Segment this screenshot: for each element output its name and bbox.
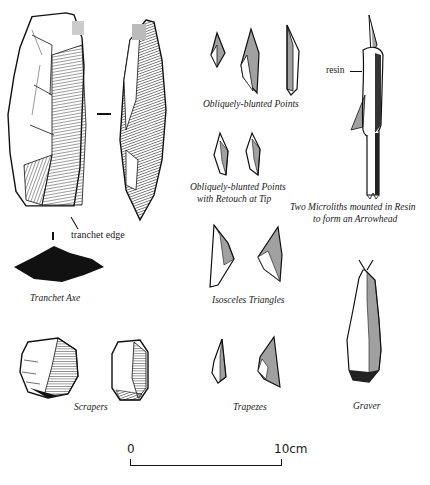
section-marker (52, 232, 54, 240)
graver-drawing (345, 260, 395, 390)
scale-start-label: 0 (127, 442, 135, 456)
resin-label: resin (326, 65, 344, 75)
arrowhead-drawing (345, 15, 395, 200)
caption-tranchet-axe: Tranchet Axe (30, 292, 80, 304)
obliquely-blunted-points-drawings (203, 25, 303, 95)
tranchet-edge-label: tranchet edge (71, 229, 125, 240)
scraper-2-drawing (110, 338, 150, 400)
scale-end-label: 10cm (274, 442, 308, 456)
caption-isosceles-triangles: Isosceles Triangles (212, 294, 285, 306)
caption-arrowhead-line2: to form an Arrowhead (313, 213, 397, 225)
resin-leader-line (350, 71, 362, 72)
tranchet-axe-cross-section (14, 245, 104, 285)
view-separator-dash (97, 113, 111, 115)
caption-obliquely-blunted-points: Obliquely-blunted Points (203, 98, 299, 110)
caption-retouched-points-line1: Obliquely-blunted Points (190, 181, 286, 193)
retouched-points-drawings (212, 131, 272, 179)
isosceles-triangles-drawings (206, 225, 286, 295)
caption-arrowhead-line1: Two Microliths mounted in Resin (290, 201, 416, 213)
tranchet-axe-side-drawing (118, 20, 178, 220)
scraper-1-drawing (18, 336, 78, 398)
tranchet-edge-leader-line (71, 217, 79, 230)
scale-bar (130, 459, 282, 466)
caption-trapezes: Trapezes (233, 401, 267, 413)
caption-retouched-points-line2: with Retouch at Tip (197, 193, 271, 205)
caption-scrapers: Scrapers (74, 401, 108, 413)
tranchet-axe-front-drawing (12, 15, 112, 215)
trapezes-drawings (208, 337, 288, 397)
caption-graver: Graver (353, 400, 380, 412)
